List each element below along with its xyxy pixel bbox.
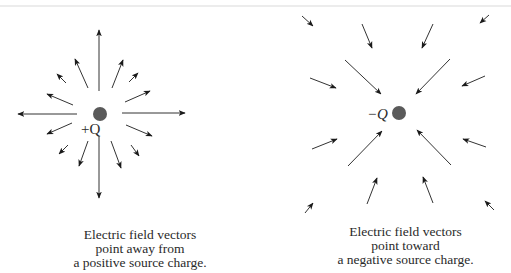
caption-line: Electric field vectors xyxy=(300,225,511,239)
field-arrow-nnw xyxy=(362,24,372,48)
field-arrow-ssw xyxy=(79,141,88,166)
field-arrow-far-nw xyxy=(302,16,313,26)
positive-caption: Electric field vectors point away from a… xyxy=(40,228,240,270)
positive-charge-dot xyxy=(93,107,107,121)
field-arrow-wnw xyxy=(310,78,336,88)
field-arrow-nne xyxy=(112,60,123,88)
field-arrow-ene xyxy=(125,91,150,102)
field-arrow-ne xyxy=(416,59,450,94)
field-arrow-ese xyxy=(126,125,152,136)
field-arrow-nnw xyxy=(75,59,88,88)
field-arrow-far-se xyxy=(485,201,494,210)
field-arrow-ene xyxy=(462,76,485,86)
caption-line: Electric field vectors xyxy=(40,228,240,242)
field-arrow-sw xyxy=(348,131,382,166)
field-arrow-ssw xyxy=(367,178,377,204)
field-arrow-ese xyxy=(463,139,486,147)
field-arrow-wnw xyxy=(47,94,73,105)
negative-caption: Electric field vectors point toward a ne… xyxy=(300,225,511,267)
positive-charge-label: +Q xyxy=(81,121,100,137)
field-arrow-far-sw xyxy=(305,203,313,213)
field-arrow-sse xyxy=(111,141,121,168)
field-arrow-se xyxy=(417,130,451,165)
caption-line: point away from xyxy=(40,242,240,256)
field-arrow-nne xyxy=(422,24,433,48)
field-arrow-sw xyxy=(59,145,68,154)
caption-line: point toward xyxy=(300,239,511,253)
field-arrow-nw xyxy=(57,74,66,83)
field-arrow-nw xyxy=(345,60,381,94)
field-arrow-sse xyxy=(423,177,433,203)
caption-line: a negative source charge. xyxy=(300,253,511,267)
caption-line: a positive source charge. xyxy=(40,256,240,270)
field-arrow-wsw xyxy=(47,123,72,134)
field-arrow-wsw xyxy=(312,139,337,149)
negative-charge-dot xyxy=(392,106,406,120)
field-arrow-ne xyxy=(129,73,138,82)
field-arrow-se xyxy=(131,145,139,156)
field-arrow-far-ne xyxy=(480,15,489,23)
negative-charge-label: −Q xyxy=(367,106,388,122)
